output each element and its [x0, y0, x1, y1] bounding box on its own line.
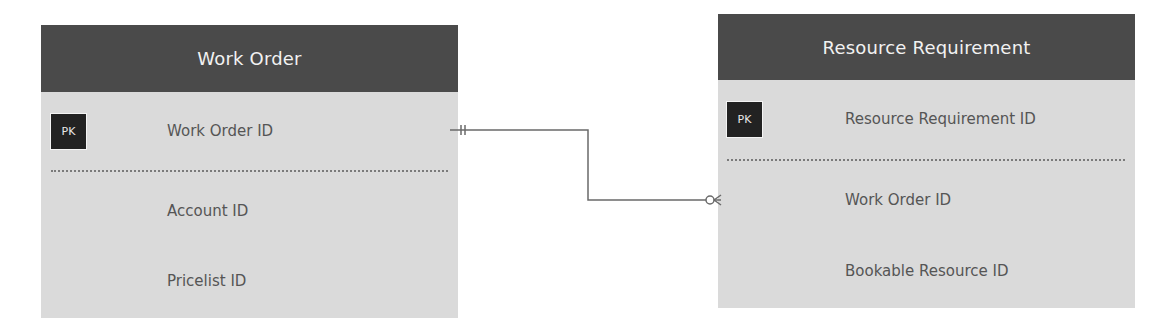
entity-title: Resource Requirement: [822, 37, 1030, 58]
zero-circle-icon: [706, 196, 714, 204]
entity-header-work-order: Work Order: [41, 25, 458, 92]
entity-title: Work Order: [197, 48, 301, 69]
field-account-id[interactable]: Account ID: [167, 201, 248, 221]
field-bookable-resource-id[interactable]: Bookable Resource ID: [845, 261, 1008, 281]
entity-header-resource-requirement: Resource Requirement: [718, 14, 1135, 80]
field-work-order-id[interactable]: Work Order ID: [167, 121, 273, 141]
entity-work-order[interactable]: Work Order PK Work Order ID Account ID P…: [41, 25, 458, 318]
field-work-order-id-fk[interactable]: Work Order ID: [845, 190, 951, 210]
primary-key-badge: PK: [51, 114, 86, 149]
field-pricelist-id[interactable]: Pricelist ID: [167, 271, 246, 291]
field-resource-requirement-id[interactable]: Resource Requirement ID: [845, 109, 1036, 129]
primary-key-badge: PK: [727, 102, 762, 137]
key-divider: [51, 170, 448, 172]
entity-resource-requirement[interactable]: Resource Requirement PK Resource Require…: [718, 14, 1135, 308]
key-divider: [727, 159, 1125, 161]
